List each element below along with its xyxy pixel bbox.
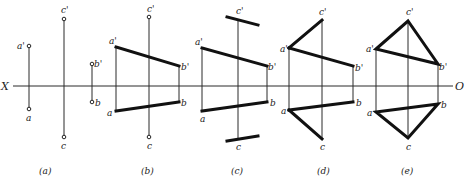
axis-label-x: X — [0, 80, 10, 93]
line-ab-top — [116, 102, 179, 111]
point-b — [90, 100, 94, 104]
label-c: c — [61, 141, 66, 151]
caption-e: (e) — [401, 166, 414, 176]
triangle-abc-top — [376, 104, 438, 138]
figure-c: a' a c' c b' b (c) — [195, 6, 276, 176]
caption-c: (c) — [231, 166, 244, 176]
label-b-prime: b' — [268, 62, 276, 72]
point-a-prime — [27, 44, 31, 48]
label-c-prime: c' — [236, 6, 244, 16]
label-a: a — [200, 114, 205, 124]
label-b: b — [441, 100, 447, 110]
label-c: c — [236, 142, 241, 152]
label-c: c — [320, 142, 325, 152]
point-c-prime — [147, 15, 151, 19]
point-c — [147, 135, 151, 139]
point-a — [27, 107, 31, 111]
figure-b: a' a c' c b' b (b) — [107, 4, 189, 176]
line-ab-front — [116, 47, 179, 66]
point-c — [62, 135, 66, 139]
label-a: a — [281, 106, 286, 116]
label-b-prime: b' — [439, 62, 447, 72]
label-a-prime: a' — [280, 44, 288, 54]
label-a-prime: a' — [366, 44, 374, 54]
line-ac-front — [289, 20, 322, 48]
label-a-prime: a' — [109, 36, 117, 46]
label-a-prime: a' — [195, 37, 203, 47]
figure-d: a' a c' c b' b (d) — [280, 7, 363, 176]
label-b: b — [95, 98, 101, 108]
point-c-prime — [62, 17, 66, 21]
figure-a: a' a c' c b' b (a) — [17, 5, 102, 176]
label-a-prime: a' — [17, 41, 25, 51]
label-b-prime: b' — [181, 62, 189, 72]
line-ac-top — [289, 110, 322, 139]
label-a: a — [367, 108, 372, 118]
label-c-prime: c' — [406, 7, 414, 17]
line-ab-front — [289, 48, 353, 66]
caption-b: (b) — [141, 166, 154, 176]
line-ab-front — [202, 48, 267, 66]
caption-d: (d) — [317, 166, 330, 176]
label-c: c — [147, 141, 152, 151]
label-b: b — [356, 98, 362, 108]
label-b-prime: b' — [94, 59, 102, 69]
label-c-prime: c' — [147, 4, 155, 14]
label-a: a — [26, 113, 31, 123]
label-b: b — [181, 98, 187, 108]
line-c-top-segment — [227, 136, 258, 141]
label-b: b — [270, 98, 276, 108]
triangle-abc-front — [376, 21, 438, 64]
figure-e: a' a c' c b' b (e) — [366, 7, 447, 176]
line-ab-top — [289, 102, 353, 110]
caption-a: (a) — [39, 166, 52, 176]
axis-label-o: O — [455, 80, 464, 93]
label-c-prime: c' — [61, 5, 69, 15]
label-c: c — [406, 142, 411, 152]
line-c-front-segment — [227, 17, 258, 25]
label-a: a — [107, 108, 112, 118]
projection-diagram: X O a' a c' c b' b (a) a' a c' c b' b (b… — [0, 0, 465, 184]
label-c-prime: c' — [319, 7, 327, 17]
label-b-prime: b' — [355, 63, 363, 73]
line-ab-top — [202, 102, 267, 111]
